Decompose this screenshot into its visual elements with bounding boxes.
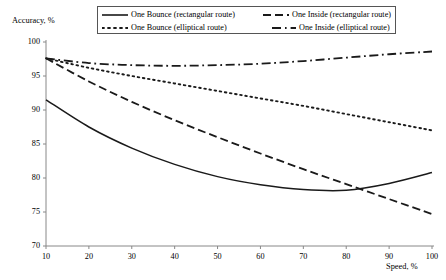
legend-swatch-dashdot-icon [270,23,296,33]
series-line [46,58,432,214]
legend-label-one-bounce-rectangular: One Bounce (rectangular route) [131,10,235,20]
y-tick-label: 100 [18,37,40,46]
chart-legend: One Bounce (rectangular route) One Insid… [97,6,396,34]
series-line [46,52,432,66]
legend-item-one-inside-rectangular: One Inside (rectangular route) [263,10,391,20]
x-axis-title: Speed, % [386,262,418,271]
y-axis-title: Accuracy, % [12,16,55,25]
legend-item-one-inside-elliptical: One Inside (elliptical route) [270,23,390,33]
y-tick-label: 90 [18,105,40,114]
x-tick-label: 20 [79,252,99,261]
line-chart-plot [0,0,446,280]
x-tick-label: 70 [293,252,313,261]
chart-container: One Bounce (rectangular route) One Insid… [0,0,446,280]
legend-item-one-bounce-rectangular: One Bounce (rectangular route) [102,10,263,20]
legend-label-one-inside-elliptical: One Inside (elliptical route) [299,23,390,33]
y-tick-label: 80 [18,173,40,182]
x-tick-label: 60 [250,252,270,261]
legend-item-one-bounce-elliptical: One Bounce (elliptical route) [102,23,270,33]
x-tick-label: 50 [208,252,228,261]
legend-label-one-inside-rectangular: One Inside (rectangular route) [292,10,391,20]
x-tick-label: 90 [379,252,399,261]
x-tick-label: 10 [36,252,56,261]
legend-row-1: One Bounce (rectangular route) One Insid… [102,8,391,21]
x-tick-label: 30 [122,252,142,261]
legend-swatch-dashed-icon [263,10,289,20]
y-tick-label: 95 [18,71,40,80]
x-tick-label: 40 [165,252,185,261]
legend-swatch-dotted-icon [102,23,128,33]
y-tick-label: 85 [18,139,40,148]
y-tick-label: 75 [18,207,40,216]
series-line [46,58,432,130]
legend-label-one-bounce-elliptical: One Bounce (elliptical route) [131,23,227,33]
x-tick-label: 100 [422,252,442,261]
x-tick-label: 80 [336,252,356,261]
y-tick-label: 70 [18,241,40,250]
legend-swatch-solid-icon [102,10,128,20]
legend-row-2: One Bounce (elliptical route) One Inside… [102,21,391,34]
